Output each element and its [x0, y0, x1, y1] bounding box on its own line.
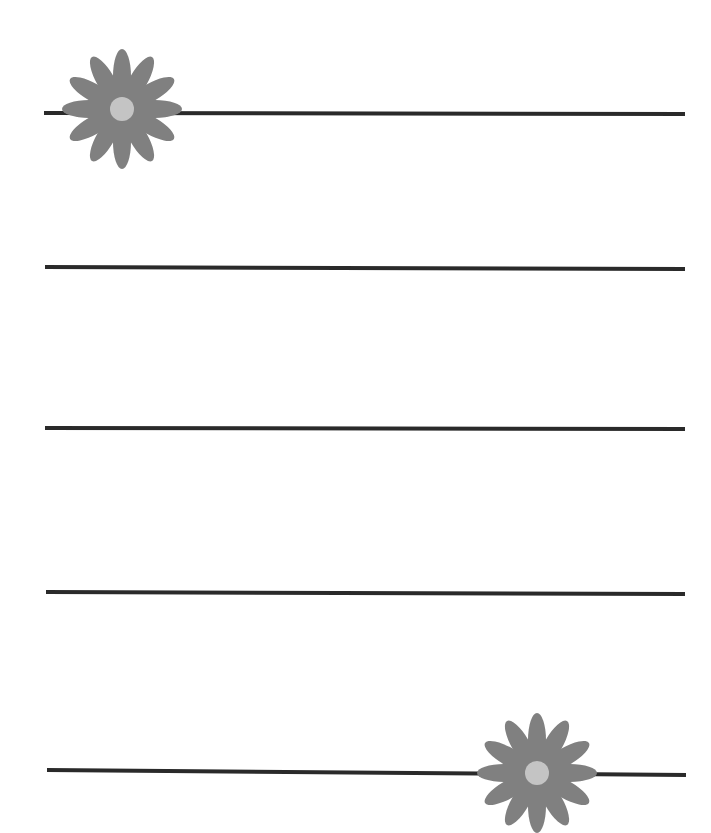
daisy-icon [62, 49, 182, 169]
ruled-line-3 [45, 426, 685, 431]
ruled-line-4 [46, 590, 685, 596]
ruled-line-2 [45, 265, 685, 271]
daisy-icon [477, 713, 597, 833]
